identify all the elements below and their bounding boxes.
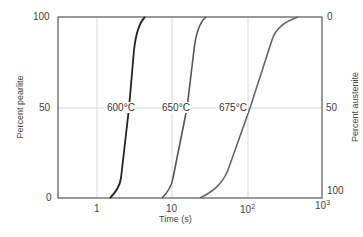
curve-label-650C: 650°C bbox=[161, 102, 191, 113]
x-tick-100-exp: 2 bbox=[251, 203, 255, 210]
y-axis-label-left: Percent pearlite bbox=[15, 75, 25, 138]
x-tick-1: 1 bbox=[94, 203, 100, 214]
x-tick-10: 10 bbox=[166, 203, 177, 214]
x-tick-1000-base: 10 bbox=[315, 200, 326, 211]
x-tick-100-base: 10 bbox=[240, 204, 251, 215]
y-tick-right-100: 100 bbox=[327, 185, 344, 196]
y-tick-left-50: 50 bbox=[39, 102, 50, 113]
y-tick-left-100: 100 bbox=[33, 11, 50, 22]
y-tick-right-50: 50 bbox=[326, 102, 337, 113]
y-tick-left-0: 0 bbox=[46, 192, 52, 203]
y-tick-right-0: 0 bbox=[327, 11, 333, 22]
curve-675C bbox=[200, 17, 298, 198]
y-axis-label-right: Percent austenite bbox=[350, 72, 360, 142]
x-tick-1000-exp: 3 bbox=[326, 199, 330, 206]
x-tick-100: 102 bbox=[240, 203, 255, 215]
curve-label-600C: 600°C bbox=[106, 102, 136, 113]
x-tick-1000: 103 bbox=[315, 199, 330, 211]
x-axis-label: Time (s) bbox=[159, 214, 192, 224]
curve-label-675C: 675°C bbox=[218, 102, 248, 113]
transformation-chart bbox=[0, 0, 363, 237]
